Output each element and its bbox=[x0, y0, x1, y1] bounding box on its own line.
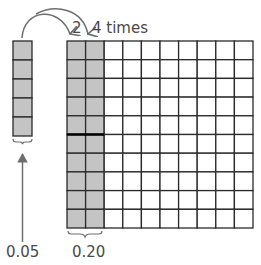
grid-cell bbox=[104, 78, 123, 97]
grid-cell bbox=[197, 97, 216, 116]
grid-cell bbox=[160, 41, 179, 60]
grid-cell bbox=[197, 116, 216, 135]
grid-cell bbox=[123, 191, 142, 210]
shaded-grid-cell bbox=[67, 209, 86, 228]
grid-cell bbox=[123, 116, 142, 135]
grid-cell bbox=[216, 191, 235, 210]
grid-cell bbox=[179, 172, 198, 191]
grid-cell bbox=[160, 97, 179, 116]
shaded-grid-cell bbox=[67, 60, 86, 79]
grid-cell bbox=[123, 78, 142, 97]
grid-cell bbox=[123, 153, 142, 172]
grid-cell bbox=[104, 60, 123, 79]
grid-cell bbox=[141, 191, 160, 210]
grid-cell bbox=[234, 209, 253, 228]
shaded-grid-cell bbox=[86, 153, 105, 172]
left-strip-value-label: 0.05 bbox=[6, 245, 39, 260]
grid-cell bbox=[216, 97, 235, 116]
grid-cell bbox=[234, 153, 253, 172]
grid-cell bbox=[141, 116, 160, 135]
grid-cell bbox=[160, 172, 179, 191]
shaded-grid-cell bbox=[86, 191, 105, 210]
shaded-grid-cell bbox=[86, 209, 105, 228]
shaded-grid-cell bbox=[86, 172, 105, 191]
shaded-grid-cell bbox=[86, 60, 105, 79]
grid-cell bbox=[104, 41, 123, 60]
grid-cell bbox=[197, 153, 216, 172]
grid-cell bbox=[234, 191, 253, 210]
grid-cell bbox=[179, 153, 198, 172]
shaded-grid-cell bbox=[67, 97, 86, 116]
grid-cell bbox=[179, 135, 198, 154]
grid-cell bbox=[104, 153, 123, 172]
grid-cell bbox=[104, 97, 123, 116]
grid-cell bbox=[160, 153, 179, 172]
shaded-grid-cell bbox=[67, 135, 86, 154]
strip-cell bbox=[13, 79, 32, 98]
left-strip-brace bbox=[13, 139, 32, 144]
strip-cell bbox=[13, 41, 32, 60]
grid-cell bbox=[141, 97, 160, 116]
shaded-grid-cell bbox=[86, 116, 105, 135]
grid-cell bbox=[160, 78, 179, 97]
shaded-grid-cell bbox=[67, 191, 86, 210]
grid-cell bbox=[197, 60, 216, 79]
grid-cell bbox=[104, 135, 123, 154]
curved-arrow-to-2 bbox=[22, 14, 70, 38]
shaded-grid-cell bbox=[67, 153, 86, 172]
grid-cell bbox=[197, 191, 216, 210]
grid-cell bbox=[179, 97, 198, 116]
grid-cell bbox=[104, 116, 123, 135]
grid-cell bbox=[104, 172, 123, 191]
shaded-grid-cell bbox=[86, 41, 105, 60]
shaded-grid-cell bbox=[86, 78, 105, 97]
grid-cell bbox=[123, 41, 142, 60]
grid-cell bbox=[141, 172, 160, 191]
grid-cell bbox=[216, 153, 235, 172]
diagram: 2 4 times 0.05 0.20 bbox=[0, 0, 261, 265]
grid-cell bbox=[216, 209, 235, 228]
grid-cell bbox=[197, 209, 216, 228]
grid-cell bbox=[141, 153, 160, 172]
grid-cell bbox=[123, 60, 142, 79]
grid-cell bbox=[123, 172, 142, 191]
grid-brace bbox=[68, 231, 102, 237]
grid-cell bbox=[141, 209, 160, 228]
hundred-grid bbox=[67, 41, 253, 228]
grid-cell bbox=[179, 191, 198, 210]
grid-value-label: 0.20 bbox=[72, 245, 105, 260]
grid-cell bbox=[216, 172, 235, 191]
grid-cell bbox=[197, 172, 216, 191]
grid-cell bbox=[234, 116, 253, 135]
grid-cell bbox=[141, 41, 160, 60]
grid-cell bbox=[234, 60, 253, 79]
strip-cell bbox=[13, 117, 32, 136]
grid-cell bbox=[123, 209, 142, 228]
left-strip-0-05 bbox=[13, 41, 32, 136]
grid-cell bbox=[104, 191, 123, 210]
grid-cell bbox=[234, 78, 253, 97]
grid-cell bbox=[197, 41, 216, 60]
strip-cell bbox=[13, 60, 32, 79]
shaded-grid-cell bbox=[86, 135, 105, 154]
shaded-grid-cell bbox=[67, 172, 86, 191]
grid-cell bbox=[141, 78, 160, 97]
grid-cell bbox=[179, 209, 198, 228]
grid-cell bbox=[234, 135, 253, 154]
grid-cell bbox=[160, 209, 179, 228]
shaded-grid-cell bbox=[67, 116, 86, 135]
grid-cell bbox=[179, 41, 198, 60]
grid-cell bbox=[123, 135, 142, 154]
grid-cell bbox=[216, 78, 235, 97]
grid-cell bbox=[179, 78, 198, 97]
grid-cell bbox=[234, 97, 253, 116]
grid-cell bbox=[234, 41, 253, 60]
grid-cell bbox=[123, 97, 142, 116]
grid-cell bbox=[234, 172, 253, 191]
grid-cell bbox=[160, 191, 179, 210]
grid-cell bbox=[141, 135, 160, 154]
grid-cell bbox=[160, 60, 179, 79]
grid-cell bbox=[216, 116, 235, 135]
grid-cell bbox=[216, 135, 235, 154]
times-label: 4 times bbox=[92, 21, 148, 36]
